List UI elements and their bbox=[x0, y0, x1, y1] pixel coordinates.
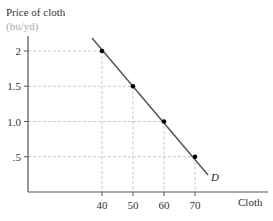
chart-svg: 21.51.0.5 40506070 D Cloth Price of clot… bbox=[0, 0, 273, 221]
x-tick-label: 50 bbox=[128, 199, 140, 211]
y-tick-label: 1.0 bbox=[7, 116, 21, 128]
x-ticks: 40506070 bbox=[97, 192, 202, 211]
y-tick-label: 1.5 bbox=[7, 80, 21, 92]
data-point bbox=[131, 84, 136, 89]
y-ticks: 21.51.0.5 bbox=[7, 45, 28, 163]
y-axis-label: Price of cloth bbox=[6, 6, 66, 18]
x-axis-label: Cloth bbox=[238, 196, 263, 208]
x-tick-label: 60 bbox=[159, 199, 171, 211]
data-point bbox=[193, 154, 198, 159]
guide-lines bbox=[28, 51, 195, 192]
y-tick-label: 2 bbox=[16, 45, 22, 57]
x-tick-label: 40 bbox=[97, 199, 109, 211]
demand-line bbox=[92, 38, 208, 175]
demand-chart: 21.51.0.5 40506070 D Cloth Price of clot… bbox=[0, 0, 273, 221]
y-axis-unit: (bu/yd) bbox=[6, 20, 39, 33]
y-tick-label: .5 bbox=[13, 151, 22, 163]
data-point bbox=[162, 119, 167, 124]
data-point bbox=[100, 49, 105, 54]
x-tick-label: 70 bbox=[190, 199, 202, 211]
series-label-d: D bbox=[210, 171, 219, 183]
